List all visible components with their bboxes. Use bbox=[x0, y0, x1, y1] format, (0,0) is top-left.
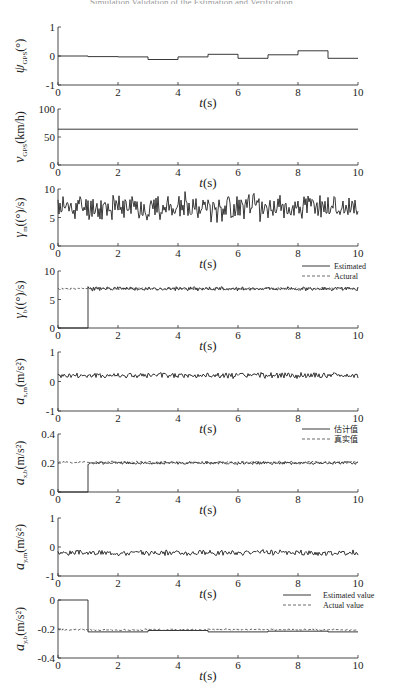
legend-label: Actural bbox=[334, 272, 359, 281]
x-tick-label: 0 bbox=[55, 86, 61, 98]
y-tick-label: 1 bbox=[50, 346, 56, 358]
y-tick-label: 0 bbox=[50, 159, 56, 171]
x-axis-label: t(s) bbox=[199, 338, 216, 353]
y-tick-label: -1 bbox=[46, 79, 55, 91]
x-tick-label: 4 bbox=[175, 86, 181, 98]
x-tick-label: 8 bbox=[295, 493, 301, 505]
axes-frame bbox=[58, 189, 358, 246]
x-tick-label: 0 bbox=[55, 247, 61, 259]
x-axis-label: t(s) bbox=[199, 502, 216, 517]
x-tick-label: 0 bbox=[55, 329, 61, 341]
y-axis-label: vGPS(km/h) bbox=[12, 111, 29, 163]
x-tick-label: 6 bbox=[235, 247, 241, 259]
y-tick-label: -1 bbox=[46, 570, 55, 582]
legend: EstimatedActural bbox=[302, 262, 366, 281]
x-tick-label: 10 bbox=[353, 166, 365, 178]
x-tick-label: 4 bbox=[175, 329, 181, 341]
x-tick-label: 4 bbox=[175, 412, 181, 424]
chart-panel-a_x_b: 024681000.20.4t(s)ax,b(m/s²)估计值真实值 bbox=[12, 424, 364, 517]
chart-panel-v_gps: 0246810050100t(s)vGPS(km/h) bbox=[12, 103, 364, 190]
y-tick-label: -0.4 bbox=[38, 652, 56, 664]
x-tick-label: 6 bbox=[235, 166, 241, 178]
axes-frame bbox=[58, 271, 358, 328]
y-tick-label: 1 bbox=[50, 21, 56, 33]
x-axis-label: t(s) bbox=[199, 95, 216, 110]
x-tick-label: 10 bbox=[353, 86, 365, 98]
x-tick-label: 4 bbox=[175, 493, 181, 505]
x-tick-label: 0 bbox=[55, 166, 61, 178]
x-tick-label: 4 bbox=[175, 166, 181, 178]
series-line bbox=[58, 51, 358, 60]
x-tick-label: 2 bbox=[115, 86, 121, 98]
x-axis-label: t(s) bbox=[199, 668, 216, 683]
y-tick-label: 10 bbox=[44, 183, 56, 195]
legend-label: Estimated bbox=[334, 262, 366, 271]
x-tick-label: 8 bbox=[295, 166, 301, 178]
y-axis-label: γb((°)/s) bbox=[12, 281, 29, 319]
x-tick-label: 2 bbox=[115, 659, 121, 671]
x-tick-label: 10 bbox=[353, 412, 365, 424]
x-tick-label: 2 bbox=[115, 412, 121, 424]
x-tick-label: 10 bbox=[353, 577, 365, 589]
y-axis-label: ay,m(m/s²) bbox=[12, 524, 29, 570]
axes-frame bbox=[58, 518, 358, 576]
x-tick-label: 6 bbox=[235, 493, 241, 505]
y-axis-label: ay,b(m/s²) bbox=[12, 607, 29, 651]
x-tick-label: 2 bbox=[115, 166, 121, 178]
y-tick-label: 0 bbox=[50, 240, 56, 252]
legend: Estimated valueActual value bbox=[283, 591, 375, 610]
legend-label: 真实值 bbox=[334, 434, 358, 444]
y-tick-label: 0 bbox=[50, 50, 56, 62]
x-tick-label: 0 bbox=[55, 412, 61, 424]
x-tick-label: 4 bbox=[175, 659, 181, 671]
y-tick-label: 5 bbox=[50, 294, 56, 306]
chart-panel-a_y_m: 0246810-101t(s)ay,m(m/s²) bbox=[12, 512, 364, 601]
x-tick-label: 10 bbox=[353, 659, 365, 671]
series-line bbox=[58, 372, 358, 378]
legend: 估计值真实值 bbox=[302, 424, 358, 444]
chart-panel-a_x_m: 0246810-101t(s)ax,m(m/s²) bbox=[12, 346, 364, 436]
x-tick-label: 8 bbox=[295, 577, 301, 589]
y-tick-label: 50 bbox=[44, 131, 56, 143]
chart-panel-gamma_b: 02468100510t(s)γb((°)/s)EstimatedActural bbox=[12, 262, 366, 353]
chart-panel-gamma_m: 02468100510t(s)γm((°)/s) bbox=[12, 183, 364, 271]
series-line bbox=[58, 550, 358, 556]
y-axis-label: ax,b(m/s²) bbox=[12, 441, 29, 486]
y-tick-label: 100 bbox=[39, 103, 56, 115]
y-tick-label: 0 bbox=[50, 541, 56, 553]
x-tick-label: 0 bbox=[55, 577, 61, 589]
x-tick-label: 6 bbox=[235, 659, 241, 671]
y-axis-label: ax,m(m/s²) bbox=[12, 358, 29, 405]
y-tick-label: 0.4 bbox=[41, 428, 55, 440]
y-axis-label: γm((°)/s) bbox=[12, 198, 29, 238]
x-tick-label: 8 bbox=[295, 86, 301, 98]
x-tick-label: 6 bbox=[235, 86, 241, 98]
x-tick-label: 2 bbox=[115, 493, 121, 505]
x-tick-label: 8 bbox=[295, 329, 301, 341]
x-tick-label: 6 bbox=[235, 412, 241, 424]
legend-label: Estimated value bbox=[323, 591, 375, 600]
series-solid bbox=[58, 600, 358, 632]
y-tick-label: 5 bbox=[50, 212, 56, 224]
x-axis-label: t(s) bbox=[199, 586, 216, 601]
x-tick-label: 8 bbox=[295, 659, 301, 671]
y-tick-label: -0.2 bbox=[38, 623, 55, 635]
x-tick-label: 8 bbox=[295, 247, 301, 259]
x-axis-label: t(s) bbox=[199, 256, 216, 271]
x-tick-label: 6 bbox=[235, 577, 241, 589]
y-tick-label: 0 bbox=[50, 486, 56, 498]
legend-label: Actual value bbox=[323, 601, 364, 610]
x-axis-label: t(s) bbox=[199, 175, 216, 190]
legend-label: 估计值 bbox=[334, 424, 358, 434]
x-tick-label: 4 bbox=[175, 577, 181, 589]
y-tick-label: 0 bbox=[50, 376, 56, 388]
series-solid bbox=[58, 461, 358, 492]
x-tick-label: 10 bbox=[353, 247, 365, 259]
y-tick-label: -1 bbox=[46, 405, 55, 417]
x-tick-label: 4 bbox=[175, 247, 181, 259]
y-tick-label: 0.2 bbox=[41, 457, 55, 469]
y-tick-label: 1 bbox=[50, 512, 56, 524]
series-solid bbox=[58, 287, 358, 328]
axes-frame bbox=[58, 109, 358, 165]
chart-panel-a_y_b: 0246810-0.4-0.20t(s)ay,b(m/s²)Estimated … bbox=[12, 591, 375, 683]
